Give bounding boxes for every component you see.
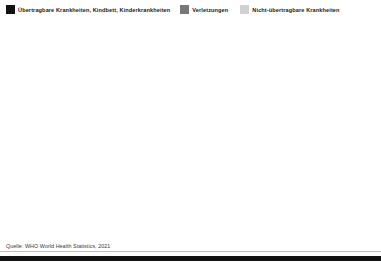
legend-swatch-injuries — [180, 5, 189, 14]
legend-label-communicable: Übertragbare Krankheiten, Kindbett, Kind… — [18, 7, 170, 13]
legend-swatch-noncommunicable — [240, 5, 249, 14]
chart-figure: Übertragbare Krankheiten, Kindbett, Kind… — [0, 0, 381, 263]
panel-grid — [0, 28, 381, 228]
chart-legend: Übertragbare Krankheiten, Kindbett, Kind… — [0, 5, 381, 14]
legend-label-injuries: Verletzungen — [192, 7, 228, 13]
legend-label-noncommunicable: Nicht-übertragbare Krankheiten — [252, 7, 339, 13]
legend-item-injuries: Verletzungen — [180, 5, 228, 14]
footer-bar — [0, 256, 381, 261]
footer-divider — [0, 251, 381, 252]
legend-swatch-communicable — [6, 5, 15, 14]
legend-item-communicable: Übertragbare Krankheiten, Kindbett, Kind… — [6, 5, 170, 14]
legend-item-noncommunicable: Nicht-übertragbare Krankheiten — [240, 5, 339, 14]
source-note: Quelle: WHO World Health Statistics, 202… — [6, 243, 110, 249]
